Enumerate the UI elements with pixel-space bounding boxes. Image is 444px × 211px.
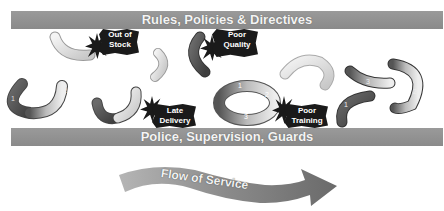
problem-label: Out of xyxy=(101,30,139,40)
problem-label: Poor xyxy=(214,30,260,40)
problem-label: Training xyxy=(284,116,330,126)
svg-text:3: 3 xyxy=(244,113,248,120)
burst-late-delivery: Late Delivery xyxy=(140,96,200,128)
pipe-ring: 1 2 3 xyxy=(219,82,275,120)
burst-out-of-stock: Out of Stock xyxy=(85,29,155,59)
problem-label: Stock xyxy=(101,40,139,50)
pipe-light-arc xyxy=(285,60,329,85)
pipe-small-light xyxy=(155,53,163,77)
burst-poor-quality: Poor Quality xyxy=(200,29,270,61)
pipe-left-u: 1 2 xyxy=(11,84,67,113)
problem-label: Late xyxy=(152,106,198,116)
svg-text:1: 1 xyxy=(344,101,348,108)
svg-text:1: 1 xyxy=(238,82,242,89)
svg-text:1: 1 xyxy=(11,95,15,102)
problem-label: Poor xyxy=(284,106,330,116)
problem-label: Quality xyxy=(214,40,260,50)
svg-text:2: 2 xyxy=(413,88,417,95)
pipe-right-group: 3 1 2 xyxy=(342,64,418,122)
svg-text:3: 3 xyxy=(366,78,370,85)
svg-text:2: 2 xyxy=(63,87,67,94)
problem-label: Delivery xyxy=(152,116,198,126)
pipe-late-delivery xyxy=(97,92,136,119)
burst-poor-training: Poor Training xyxy=(272,96,332,128)
svg-text:2: 2 xyxy=(265,91,269,98)
